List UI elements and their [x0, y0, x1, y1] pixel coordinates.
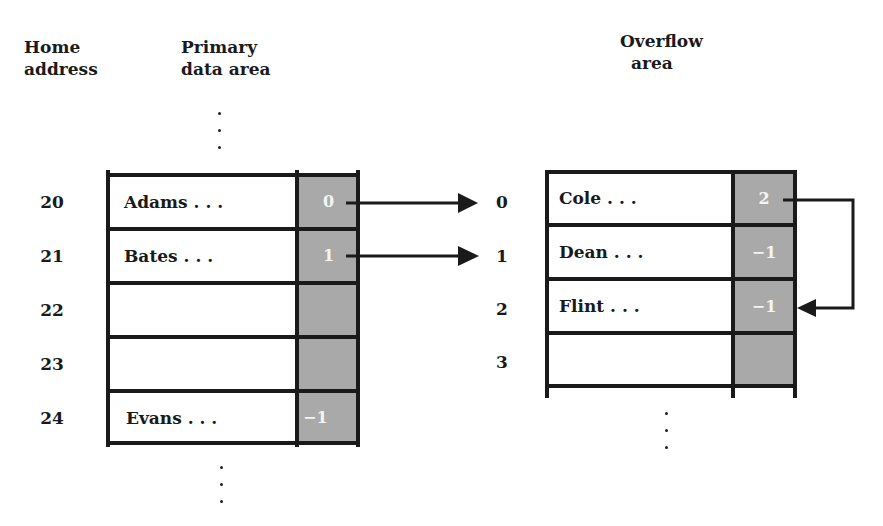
record-data: Flint . . . — [549, 281, 732, 331]
header-line: area — [620, 52, 703, 74]
overflow-area-header: Overflow area — [620, 30, 703, 74]
pointer-field: −1 — [735, 227, 793, 277]
table-row — [110, 338, 358, 389]
pointer-field: 2 — [735, 173, 793, 223]
ellipsis-bottom-overflow — [665, 412, 671, 463]
overflow-index-2: 2 — [482, 299, 522, 319]
record-data — [110, 338, 297, 389]
home-address-24: 24 — [32, 408, 72, 428]
home-address-header: Home address — [24, 36, 98, 80]
arrow-primary-20-to-overflow-0 — [346, 193, 478, 213]
table-row: Adams . . . 0 — [110, 176, 358, 227]
pointer-field — [299, 338, 358, 389]
arrow-primary-21-to-overflow-1 — [346, 246, 479, 266]
pointer-field: 0 — [299, 176, 358, 227]
overflow-index-1: 1 — [482, 246, 522, 266]
primary-area-header: Primary data area — [181, 36, 271, 80]
pointer-field — [735, 335, 793, 385]
pointer-field — [299, 284, 358, 335]
home-address-20: 20 — [32, 192, 72, 212]
pointer-field: 1 — [299, 230, 358, 281]
record-data — [110, 284, 297, 335]
overflow-index-3: 3 — [482, 352, 522, 372]
record-data: Adams . . . — [110, 176, 297, 227]
record-data: Evans . . . — [110, 392, 297, 443]
ellipsis-top-primary — [218, 112, 224, 163]
table-row — [110, 284, 358, 335]
pointer-field: −1 — [299, 392, 358, 443]
header-line: data area — [181, 58, 271, 80]
table-row: Flint . . . −1 — [549, 281, 793, 331]
header-line: Overflow — [620, 30, 703, 52]
ellipsis-bottom-primary — [220, 466, 226, 517]
header-line: Primary — [181, 36, 271, 58]
table-row — [549, 335, 793, 385]
table-row: Dean . . . −1 — [549, 227, 793, 277]
home-address-21: 21 — [32, 246, 72, 266]
pointer-field: −1 — [735, 281, 793, 331]
record-data: Bates . . . — [110, 230, 297, 281]
arrow-overflow-0-to-overflow-2 — [783, 200, 853, 317]
record-data: Dean . . . — [549, 227, 732, 277]
table-row: Bates . . . 1 — [110, 230, 358, 281]
overflow-index-0: 0 — [482, 192, 522, 212]
home-address-23: 23 — [32, 354, 72, 374]
record-data: Cole . . . — [549, 173, 732, 223]
home-address-22: 22 — [32, 300, 72, 320]
table-row: Evans . . . −1 — [110, 392, 358, 443]
table-row: Cole . . . 2 — [549, 173, 793, 223]
record-data — [549, 335, 732, 385]
header-line: Home — [24, 36, 98, 58]
header-line: address — [24, 58, 98, 80]
